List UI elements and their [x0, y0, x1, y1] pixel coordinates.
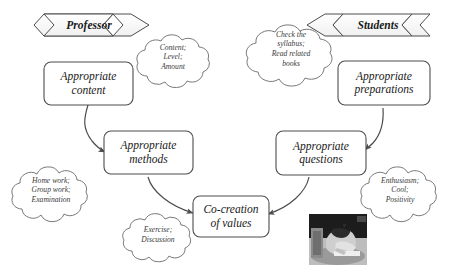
cloud-enthusiasm [361, 167, 437, 222]
box-appropriate-questions [276, 131, 366, 175]
box-appropriate-preparations [338, 61, 430, 105]
student-studying-photo [307, 212, 368, 267]
arrow-content-to-methods [85, 105, 105, 152]
box-co-creation-of-values [193, 196, 269, 237]
cloud-exercise [123, 214, 191, 262]
banner-professor [34, 14, 149, 36]
box-appropriate-methods [104, 131, 193, 174]
arrow-methods-to-cocreation [148, 177, 193, 213]
diagram-vector-layer [0, 0, 456, 277]
cloud-syllabus [246, 25, 332, 86]
cloud-homework [12, 167, 88, 222]
cloud-content [137, 35, 210, 88]
box-appropriate-content [44, 62, 133, 105]
arrow-questions-to-cocreation [268, 177, 309, 214]
diagram-canvas: Professor Students Appropriate content A… [0, 0, 456, 277]
banner-students [307, 14, 430, 36]
arrow-preparations-to-questions [365, 108, 383, 150]
